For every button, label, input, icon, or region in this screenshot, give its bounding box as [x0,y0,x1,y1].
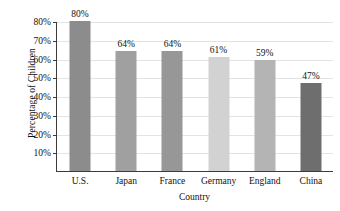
bar-series: 80%U.S.64%Japan64%France61%Germany59%Eng… [57,22,333,171]
x-tick-label: Japan [115,176,137,186]
x-tick-label: Germany [201,176,236,186]
y-tick-label: 60% [34,55,51,65]
bar-value-label: 59% [256,48,273,58]
bar-group: 47%China [288,22,334,171]
plot-area: 10%20%30%40%50%60%70%80% 80%U.S.64%Japan… [56,22,333,172]
y-tick-label: 50% [34,73,51,83]
bar-value-label: 80% [71,9,88,19]
bar-group: 64%France [149,22,195,171]
x-tick-label: France [159,176,185,186]
bar: 59% [254,60,275,171]
bar: 64% [116,51,137,171]
x-tick-label: England [249,176,281,186]
bar-group: 59%England [242,22,288,171]
x-tick-label: China [300,176,323,186]
bar-value-label: 61% [210,45,227,55]
y-tick-label: 20% [34,130,51,140]
bar-value-label: 47% [302,71,319,81]
x-axis-title: Country [56,192,333,202]
bar-group: 61%Germany [196,22,242,171]
bar-value-label: 64% [164,39,181,49]
x-tick-label: U.S. [72,176,89,186]
y-tick-label: 10% [34,148,51,158]
y-tick-label: 70% [34,36,51,46]
bar: 64% [162,51,183,171]
bar-group: 64%Japan [103,22,149,171]
bar-chart: Percentage of Children 10%20%30%40%50%60… [0,0,340,211]
bar: 47% [300,83,321,171]
bar-value-label: 64% [118,39,135,49]
y-tick-label: 80% [34,17,51,27]
y-tick-label: 30% [34,111,51,121]
bar: 61% [208,57,229,171]
bar-group: 80%U.S. [57,22,103,171]
bar: 80% [70,21,91,171]
y-tick-label: 40% [34,92,51,102]
